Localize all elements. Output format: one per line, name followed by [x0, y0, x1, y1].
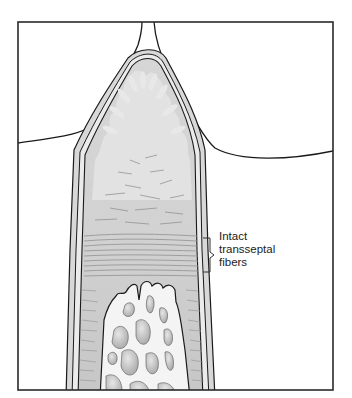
transseptal-fibers-label: Intact transseptal fibers [219, 230, 275, 269]
label-line-3: fibers [219, 256, 275, 269]
periodontal-illustration [0, 0, 352, 398]
label-line-2: transseptal [219, 243, 275, 256]
label-line-1: Intact [219, 230, 275, 243]
